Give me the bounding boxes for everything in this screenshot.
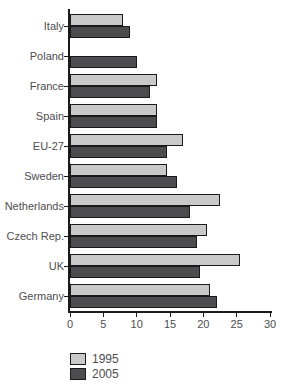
category-label-netherlands: Netherlands: [0, 200, 64, 212]
category-label-uk: UK: [0, 260, 64, 272]
x-axis-tick-label-30: 30: [258, 318, 282, 330]
legend-swatch-2005: [70, 368, 86, 380]
x-axis-tick: [70, 313, 71, 317]
x-axis-tick-label-15: 15: [158, 318, 182, 330]
x-axis-tick: [203, 313, 204, 317]
y-axis-tick: [64, 206, 68, 207]
bar-2005-poland: [70, 56, 137, 68]
x-axis-tick-label-0: 0: [58, 318, 82, 330]
bar-1995-eu-27: [70, 134, 183, 146]
x-axis-tick: [136, 313, 137, 317]
category-label-poland: Poland: [0, 50, 64, 62]
category-label-sweden: Sweden: [0, 170, 64, 182]
bar-1995-germany: [70, 284, 210, 296]
bar-2005-czech-rep: [70, 236, 197, 248]
bar-2005-eu-27: [70, 146, 167, 158]
y-axis-tick: [64, 56, 68, 57]
category-label-eu-27: EU-27: [0, 140, 64, 152]
y-axis-tick: [64, 296, 68, 297]
x-axis-tick: [236, 313, 237, 317]
bar-chart-figure: ItalyPolandFranceSpainEU-27SwedenNetherl…: [0, 0, 283, 391]
x-axis-tick-label-5: 5: [91, 318, 115, 330]
bar-1995-czech-rep: [70, 224, 207, 236]
x-axis-tick-label-20: 20: [191, 318, 215, 330]
category-label-germany: Germany: [0, 290, 64, 302]
bar-1995-spain: [70, 104, 157, 116]
bar-1995-france: [70, 74, 157, 86]
legend-label-1995: 1995: [92, 353, 119, 365]
x-axis-tick-label-25: 25: [225, 318, 249, 330]
bar-2005-netherlands: [70, 206, 190, 218]
y-axis-tick: [64, 266, 68, 267]
x-axis-tick: [103, 313, 104, 317]
bar-2005-uk: [70, 266, 200, 278]
y-axis-tick: [64, 146, 68, 147]
bar-2005-italy: [70, 26, 130, 38]
bar-1995-uk: [70, 254, 240, 266]
x-axis-tick-label-10: 10: [125, 318, 149, 330]
y-axis-tick: [64, 236, 68, 237]
legend-swatch-1995: [70, 353, 86, 365]
bar-2005-france: [70, 86, 150, 98]
category-label-italy: Italy: [0, 20, 64, 32]
category-label-czech-rep: Czech Rep.: [0, 230, 64, 242]
y-axis-tick: [64, 176, 68, 177]
bar-1995-netherlands: [70, 194, 220, 206]
y-axis-tick: [64, 86, 68, 87]
x-axis-tick: [170, 313, 171, 317]
bar-1995-italy: [70, 14, 123, 26]
x-axis-tick: [270, 313, 271, 317]
category-label-france: France: [0, 80, 64, 92]
legend-label-2005: 2005: [92, 368, 119, 380]
y-axis-tick: [64, 26, 68, 27]
category-label-spain: Spain: [0, 110, 64, 122]
y-axis-tick: [64, 116, 68, 117]
bar-2005-sweden: [70, 176, 177, 188]
bar-2005-germany: [70, 296, 217, 308]
bar-1995-sweden: [70, 164, 167, 176]
bar-2005-spain: [70, 116, 157, 128]
